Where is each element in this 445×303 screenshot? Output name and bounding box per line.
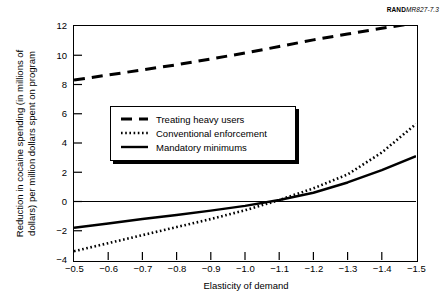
y-tick-label: −2 xyxy=(39,226,67,236)
legend-label: Treating heavy users xyxy=(156,114,244,125)
chart-figure: RANDMR827-7.3 Reduction in cocaine spend… xyxy=(0,0,445,303)
legend-entry: Treating heavy users xyxy=(111,112,295,126)
y-tick-label: 4 xyxy=(39,138,67,148)
legend-swatch-solid-icon xyxy=(121,142,148,152)
legend-label: Conventional enforcement xyxy=(156,128,267,139)
legend-entry: Mandatory minimums xyxy=(111,140,295,154)
y-tick-label: 8 xyxy=(39,80,67,90)
series-line-0 xyxy=(74,26,416,80)
document-number: MR827-7.3 xyxy=(406,6,439,13)
legend-swatch-dotted-icon xyxy=(121,128,148,138)
x-axis-title: Elasticity of demand xyxy=(73,280,419,291)
chart-legend: Treating heavy usersConventional enforce… xyxy=(110,106,296,161)
series-line-2 xyxy=(74,156,416,228)
legend-swatch-dashed-icon xyxy=(121,114,148,124)
y-tick-label: 12 xyxy=(39,21,67,31)
y-tick-label: 6 xyxy=(39,109,67,119)
legend-label: Mandatory minimums xyxy=(156,142,247,153)
rand-logo-text: RAND xyxy=(387,6,406,13)
y-tick-label: 2 xyxy=(39,168,67,178)
x-tick-label: −1.5 xyxy=(396,264,436,274)
y-tick-label: 0 xyxy=(39,197,67,207)
y-tick-label: 10 xyxy=(39,51,67,61)
source-code-label: RANDMR827-7.3 xyxy=(387,7,439,14)
legend-entry: Conventional enforcement xyxy=(111,126,295,140)
